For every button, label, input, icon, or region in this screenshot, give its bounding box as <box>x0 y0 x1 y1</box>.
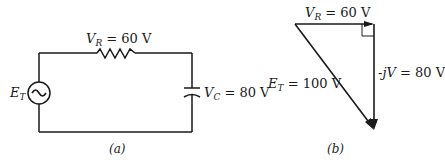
resistor-voltage-label: VR = 60 V <box>86 32 151 48</box>
resistor-icon <box>97 49 135 58</box>
caption-a: (a) <box>109 143 126 155</box>
phasor-et-label: ET = 100 V <box>268 77 341 93</box>
phasor-vc-label: -jV = 80 V <box>378 66 445 79</box>
phasor-et <box>295 24 371 125</box>
caption-b: (b) <box>327 143 344 155</box>
phasor-vr-label: VR = 60 V <box>305 6 370 22</box>
source-label: ET <box>10 86 26 102</box>
capacitor-voltage-label: VC = 80 V <box>204 86 270 102</box>
